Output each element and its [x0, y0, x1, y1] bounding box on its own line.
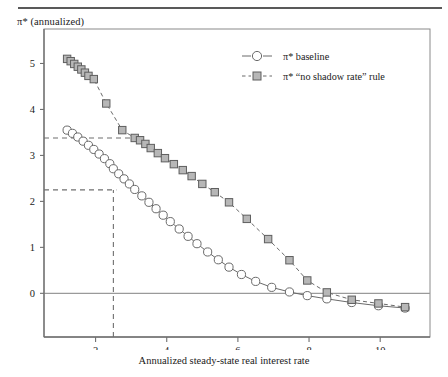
- series-marker-circle: [175, 225, 183, 233]
- series-marker-square: [188, 172, 195, 179]
- series-marker-circle: [193, 240, 201, 248]
- legend-label: π* “no shadow rate” rule: [283, 71, 385, 82]
- series-marker-circle: [252, 277, 260, 285]
- chart-legend: π* baselineπ* “no shadow rate” rule: [242, 51, 385, 82]
- series-line: [67, 130, 405, 308]
- legend-entry: π* baseline: [242, 51, 330, 62]
- series-line: [67, 59, 405, 307]
- series-marker-square: [103, 100, 110, 107]
- y-tick-label: 5: [30, 58, 35, 69]
- series-marker-circle: [166, 218, 174, 226]
- series-marker-circle: [184, 232, 192, 240]
- series-marker-square: [323, 289, 330, 296]
- series-marker-circle: [138, 192, 146, 200]
- series-marker-square: [401, 303, 408, 310]
- series-marker-square: [264, 235, 271, 242]
- y-axis-title: π* (annualized): [17, 16, 84, 27]
- series-marker-square: [179, 166, 186, 173]
- data-series: [63, 126, 409, 312]
- legend-marker-circle: [252, 51, 261, 60]
- series-marker-square: [243, 215, 250, 222]
- series-marker-square: [286, 257, 293, 264]
- x-axis-title: Annualized steady-state real interest ra…: [0, 355, 448, 366]
- series-marker-circle: [237, 270, 245, 278]
- y-tick-label: 1: [30, 242, 35, 253]
- chart-canvas: 012345246810 π* baselineπ* “no shadow ra…: [0, 0, 448, 350]
- x-tick-label: 4: [164, 345, 170, 350]
- series-marker-circle: [268, 283, 276, 291]
- series-marker-square: [348, 296, 355, 303]
- series-marker-circle: [225, 263, 233, 271]
- series-marker-square: [304, 277, 311, 284]
- series-marker-square: [147, 144, 154, 151]
- legend-marker-square: [253, 72, 261, 80]
- axis-ticks: 012345246810: [30, 58, 386, 350]
- figure-container: π* (annualized) 012345246810 π* baseline…: [0, 0, 448, 377]
- x-axis-title-text: Annualized steady-state real interest ra…: [139, 355, 310, 366]
- series-marker-circle: [145, 198, 153, 206]
- series-marker-square: [170, 160, 177, 167]
- y-tick-label: 4: [30, 104, 36, 115]
- series-marker-circle: [204, 248, 212, 256]
- series-marker-square: [90, 75, 97, 82]
- series-marker-square: [154, 149, 161, 156]
- header-rule: [18, 7, 442, 9]
- legend-label: π* baseline: [283, 51, 330, 62]
- series-marker-circle: [303, 292, 311, 300]
- y-tick-label: 0: [30, 288, 35, 299]
- y-tick-label: 3: [30, 150, 35, 161]
- series-marker-square: [211, 188, 218, 195]
- x-tick-label: 10: [375, 345, 386, 350]
- series-marker-circle: [285, 288, 293, 296]
- reference-lines: [44, 138, 138, 337]
- series-marker-circle: [131, 185, 139, 193]
- series-marker-square: [161, 154, 168, 161]
- series-marker-circle: [214, 256, 222, 264]
- x-tick-label: 2: [93, 345, 98, 350]
- series-marker-circle: [152, 205, 160, 213]
- series-marker-square: [225, 199, 232, 206]
- y-tick-label: 2: [30, 196, 35, 207]
- x-tick-label: 8: [306, 345, 311, 350]
- data-series: [63, 55, 408, 311]
- x-tick-label: 6: [235, 345, 240, 350]
- series-marker-square: [199, 180, 206, 187]
- series-marker-square: [375, 300, 382, 307]
- y-axis-title-text: π* (annualized): [17, 16, 84, 27]
- series-marker-circle: [159, 211, 167, 219]
- series-layer: [63, 55, 409, 312]
- series-marker-square: [119, 126, 126, 133]
- legend-entry: π* “no shadow rate” rule: [242, 71, 385, 82]
